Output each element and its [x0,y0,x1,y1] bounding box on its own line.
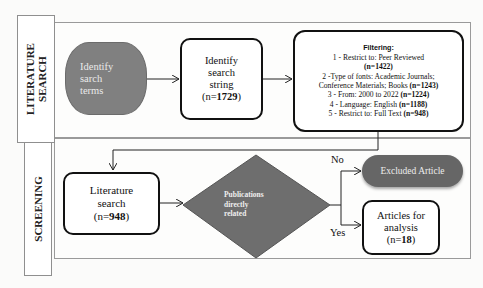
decision-label: Publications directly related [224,190,264,219]
edge-label-no: No [331,154,344,165]
node-identify-search-terms: Identify sarch terms [65,42,147,115]
edge-label-yes: Yes [330,227,345,238]
node-literature-count: (n=948) [94,210,130,223]
node-string-count: (n=1729) [202,91,241,103]
filtering-item-5: 5 - Restrict to: Full Text (n=948) [329,109,429,118]
node-string-line2: search [208,67,235,79]
node-identify-search-string: Identify search string (n=1729) [180,38,263,120]
node-articles-line1: Articles for [377,210,425,222]
filtering-item-1-count: (n=1422) [364,62,393,71]
node-articles-line2: analysis [384,222,418,234]
node-identify-terms-line2: sarch [80,73,146,85]
decision-line2: directly [224,200,264,210]
filtering-item-3: 3 - From: 2000 to 2022 (n=1224) [328,90,429,99]
node-articles-count: (n=18) [387,234,416,246]
node-literature-line1: Literature [90,184,133,197]
node-literature-line2: search [97,197,125,210]
node-identify-terms-line3: terms [80,85,146,97]
filtering-item-2: 2 -Type of fonts: Academic Journals; [322,72,434,81]
node-string-line3: string [210,79,234,91]
filtering-title: Filtering: [363,43,394,52]
filtering-item-2b: Conference Materials; Books (n=1243) [319,81,439,90]
node-excluded-article: Excluded Article [362,155,463,187]
node-literature-search: Literature search (n=948) [63,172,160,235]
decision-line1: Publications [224,190,264,200]
filtering-item-4: 4 - Language: English (n=1188) [330,100,428,109]
filtering-item-1: 1 - Restrict to: Peer Reviewed [333,53,424,62]
node-articles-for-analysis: Articles for analysis (n=18) [362,200,440,255]
node-filtering: Filtering: 1 - Restrict to: Peer Reviewe… [293,30,464,132]
edge-no [341,171,361,205]
edge-yes [341,205,361,225]
decision-line3: related [224,209,264,219]
node-string-line1: Identify [205,55,238,67]
node-identify-terms-line1: Identify [80,61,146,73]
